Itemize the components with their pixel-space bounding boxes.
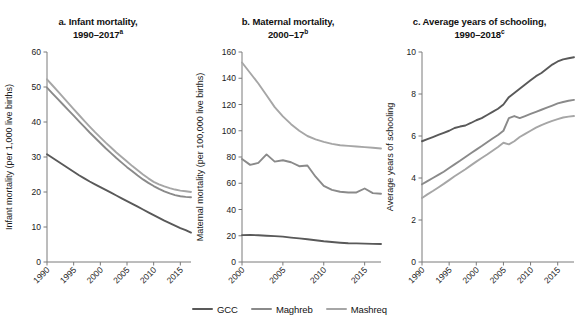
panel-b-plot: 0204060801001201401602000200520102015Mat…	[190, 0, 386, 296]
y-axis-title: Infant mortality (per 1,000 live births)	[4, 84, 14, 230]
x-tick-label: 1990	[406, 265, 427, 286]
x-tick-label: 2010	[138, 265, 159, 286]
panel-c-years-of-schooling: c. Average years of schooling, 1990–2018…	[380, 0, 579, 296]
y-tick-label: 120	[222, 100, 236, 110]
legend-item-mashreq: Mashreq	[326, 304, 387, 315]
x-tick-label: 2010	[308, 265, 329, 286]
series-line-maghreb	[422, 100, 574, 184]
y-axis-title: Maternal mortality (per 100,000 live bir…	[195, 73, 205, 242]
y-tick-label: 140	[222, 73, 236, 83]
series-line-mashreq	[422, 116, 574, 198]
x-tick-label: 2005	[267, 265, 288, 286]
x-tick-label: 2015	[349, 265, 370, 286]
y-tick-label: 10	[32, 222, 42, 232]
x-tick-label: 2010	[515, 265, 536, 286]
legend-label-maghreb: Maghreb	[276, 304, 313, 315]
panel-a-plot: 0102030405060199019952000200520102015Inf…	[0, 0, 196, 296]
x-tick-label: 2000	[84, 265, 105, 286]
series-line-gcc	[242, 235, 381, 244]
y-tick-label: 20	[227, 231, 237, 241]
x-tick-label: 2000	[226, 265, 247, 286]
y-tick-label: 8	[411, 89, 416, 99]
y-tick-label: 40	[32, 117, 42, 127]
x-tick-label: 2015	[542, 265, 563, 286]
panel-c-plot: 0246810199019952000200520102015Average y…	[380, 0, 579, 296]
y-tick-label: 4	[411, 173, 416, 183]
y-tick-label: 20	[32, 187, 42, 197]
panel-a-infant-mortality: a. Infant mortality, 1990–2017a 01020304…	[0, 0, 196, 296]
y-tick-label: 60	[227, 178, 237, 188]
x-tick-label: 1995	[433, 265, 454, 286]
series-line-maghreb	[242, 154, 381, 193]
y-tick-label: 80	[227, 152, 237, 162]
y-tick-label: 100	[222, 126, 236, 136]
y-tick-label: 0	[36, 257, 41, 267]
y-tick-label: 50	[32, 82, 42, 92]
y-axis-title: Average years of schooling	[385, 103, 395, 211]
legend-item-maghreb: Maghreb	[251, 304, 313, 315]
legend: GCC Maghreb Mashreq	[0, 296, 579, 322]
legend-label-mashreq: Mashreq	[351, 304, 387, 315]
x-tick-label: 2015	[164, 265, 185, 286]
panel-b-maternal-mortality: b. Maternal mortality, 2000–17b 02040608…	[190, 0, 386, 296]
x-tick-label: 2005	[111, 265, 132, 286]
series-line-gcc	[422, 57, 574, 141]
series-line-mashreq	[242, 63, 381, 149]
legend-item-gcc: GCC	[192, 304, 238, 315]
x-tick-label: 2005	[488, 265, 509, 286]
y-tick-label: 30	[32, 152, 42, 162]
y-tick-label: 6	[411, 131, 416, 141]
x-tick-label: 1995	[58, 265, 79, 286]
legend-swatch-mashreq	[326, 308, 347, 311]
series-line-mashreq	[47, 79, 191, 192]
x-tick-label: 2000	[460, 265, 481, 286]
figure-container: a. Infant mortality, 1990–2017a 01020304…	[0, 0, 579, 322]
y-tick-label: 0	[411, 257, 416, 267]
x-tick-label: 1990	[31, 265, 52, 286]
y-tick-label: 160	[222, 47, 236, 57]
y-tick-label: 10	[407, 47, 417, 57]
y-tick-label: 2	[411, 215, 416, 225]
y-tick-label: 0	[231, 257, 236, 267]
legend-label-gcc: GCC	[217, 304, 238, 315]
y-tick-label: 60	[32, 47, 42, 57]
legend-swatch-maghreb	[251, 308, 272, 311]
y-tick-label: 40	[227, 205, 237, 215]
legend-swatch-gcc	[192, 308, 213, 311]
